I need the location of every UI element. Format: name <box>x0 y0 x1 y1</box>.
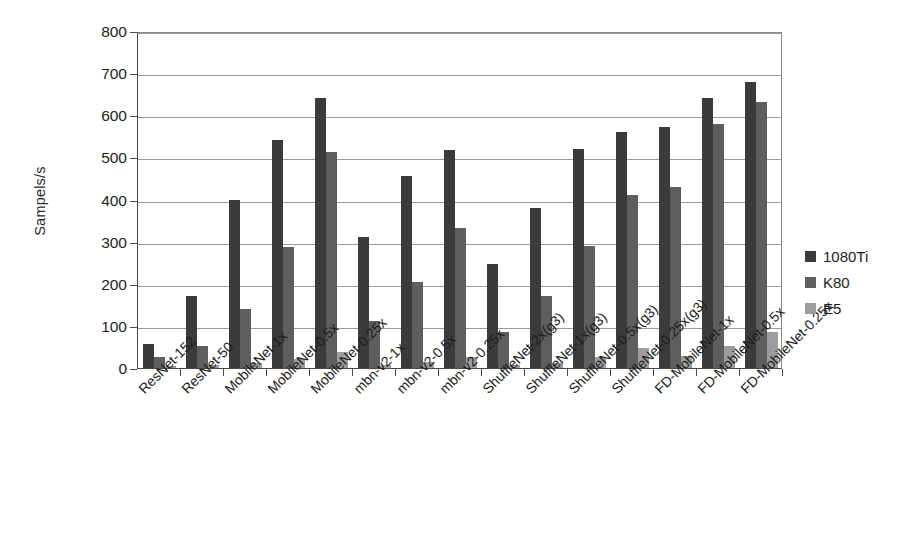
y-axis-tick-mark <box>130 201 137 202</box>
y-axis-tick-mark <box>130 158 137 159</box>
bar <box>294 359 305 368</box>
legend-item[interactable]: E5 <box>805 295 905 321</box>
bar <box>326 152 337 368</box>
y-axis-tick-mark <box>130 369 137 370</box>
bar <box>659 127 670 368</box>
bar <box>541 296 552 368</box>
x-axis-tick-mark <box>653 369 654 376</box>
bar <box>713 124 724 368</box>
bar-group <box>272 33 305 368</box>
legend-label: E5 <box>823 300 841 317</box>
y-axis-tick-label: 0 <box>67 360 127 378</box>
legend-label: 1080Ti <box>823 248 868 265</box>
legend-label: K80 <box>823 274 850 291</box>
bar <box>466 357 477 368</box>
bar <box>616 132 627 368</box>
bar <box>369 321 380 368</box>
legend-swatch-icon <box>805 277 816 288</box>
bar-group <box>444 33 477 368</box>
bar-group <box>487 33 520 368</box>
x-axis-tick-mark <box>266 369 267 376</box>
x-axis-tick-mark <box>395 369 396 376</box>
bar-group <box>401 33 434 368</box>
bar <box>186 296 197 368</box>
bar <box>756 102 767 368</box>
bar <box>455 228 466 368</box>
y-axis-tick-label: 600 <box>67 107 127 125</box>
bar-group <box>143 33 176 368</box>
y-axis-tick-label: 200 <box>67 276 127 294</box>
bar <box>745 82 756 368</box>
bar <box>584 246 595 368</box>
x-axis-tick-mark <box>696 369 697 376</box>
y-axis-tick-label: 100 <box>67 318 127 336</box>
bar <box>423 362 434 368</box>
bar <box>165 366 176 368</box>
bar <box>143 344 154 368</box>
bar <box>251 363 262 368</box>
bar <box>412 282 423 368</box>
y-axis-tick-mark <box>130 32 137 33</box>
bar <box>283 247 294 368</box>
y-axis-tick-labels: 0100200300400500600700800 <box>63 32 127 369</box>
bar <box>444 150 455 368</box>
bar <box>702 98 713 368</box>
legend-item[interactable]: K80 <box>805 269 905 295</box>
bar-group <box>186 33 219 368</box>
bar <box>724 346 735 368</box>
x-axis-tick-mark <box>782 369 783 376</box>
x-axis-tick-mark <box>524 369 525 376</box>
bar <box>337 352 348 368</box>
bar-group <box>358 33 391 368</box>
y-axis-tick-mark <box>130 116 137 117</box>
bar <box>509 365 520 368</box>
bar <box>401 176 412 369</box>
bar-group <box>745 33 778 368</box>
x-axis-tick-marks <box>137 369 782 377</box>
y-axis-tick-label: 700 <box>67 65 127 83</box>
x-axis-tick-mark <box>309 369 310 376</box>
x-axis-tick-mark <box>567 369 568 376</box>
x-axis-tick-mark <box>180 369 181 376</box>
bar <box>670 187 681 368</box>
legend-swatch-icon <box>805 251 816 262</box>
y-axis-title: Sampels/s <box>32 121 48 281</box>
x-axis-tick-mark <box>223 369 224 376</box>
legend-swatch-icon <box>805 303 816 314</box>
bar <box>530 208 541 368</box>
y-axis-tick-mark <box>130 243 137 244</box>
bar <box>315 98 326 368</box>
legend-item[interactable]: 1080Ti <box>805 243 905 269</box>
bar <box>154 357 165 368</box>
bar <box>487 264 498 368</box>
y-axis-tick-label: 400 <box>67 192 127 210</box>
bar-group <box>616 33 649 368</box>
y-axis-tick-mark <box>130 285 137 286</box>
bar <box>240 309 251 368</box>
y-axis-tick-label: 300 <box>67 234 127 252</box>
plot-area <box>137 32 782 369</box>
y-axis-tick-label: 800 <box>67 23 127 41</box>
bar <box>358 237 369 368</box>
bar-group <box>659 33 692 368</box>
bar <box>197 346 208 368</box>
bar <box>595 357 606 368</box>
bar-group <box>530 33 563 368</box>
bar <box>498 332 509 368</box>
y-axis-tick-mark <box>130 74 137 75</box>
bar <box>638 348 649 368</box>
bar-chart: Sampels/s 0100200300400500600700800 ResN… <box>0 0 911 542</box>
bar-group <box>702 33 735 368</box>
x-axis-tick-mark <box>481 369 482 376</box>
bar <box>573 149 584 368</box>
bar-group <box>573 33 606 368</box>
legend: 1080TiK80E5 <box>805 243 905 321</box>
y-axis-tick-label: 500 <box>67 149 127 167</box>
bar <box>552 363 563 368</box>
bar <box>272 140 283 368</box>
bar <box>380 365 391 368</box>
y-axis-tick-mark <box>130 327 137 328</box>
bar-group <box>229 33 262 368</box>
bar <box>681 356 692 368</box>
bar <box>767 332 778 368</box>
